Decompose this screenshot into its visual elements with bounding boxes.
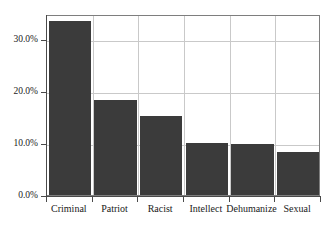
y-axis-tick-label: 10.0% bbox=[13, 139, 38, 149]
x-axis-tick bbox=[183, 197, 184, 202]
x-axis-tick-label: Sexual bbox=[284, 204, 311, 214]
bar bbox=[94, 100, 137, 195]
y-axis-tick-label: 20.0% bbox=[13, 87, 38, 97]
x-axis-tick-label: Patriot bbox=[101, 204, 128, 214]
x-axis-tick bbox=[92, 197, 93, 202]
x-axis-tick bbox=[320, 197, 321, 202]
x-axis-tick-label: Intellect bbox=[189, 204, 222, 214]
x-axis-tick-label: Criminal bbox=[51, 204, 87, 214]
bar-chart: 0.0%10.0%20.0%30.0% CriminalPatriotRacis… bbox=[0, 0, 331, 231]
plot-area bbox=[46, 15, 320, 196]
bar bbox=[140, 116, 183, 195]
y-axis-tick bbox=[41, 92, 47, 93]
x-axis-tick bbox=[274, 197, 275, 202]
x-axis-tick bbox=[46, 197, 47, 202]
bar bbox=[186, 143, 229, 195]
bar bbox=[49, 21, 92, 195]
x-axis-tick bbox=[137, 197, 138, 202]
x-axis-tick bbox=[229, 197, 230, 202]
y-axis-tick-label: 30.0% bbox=[13, 35, 38, 45]
x-axis-tick-label: Dehumanize bbox=[226, 204, 277, 214]
bar bbox=[277, 152, 320, 195]
bars-container bbox=[47, 16, 319, 195]
y-axis-tick-label: 0.0% bbox=[18, 191, 38, 201]
bar bbox=[231, 144, 274, 195]
x-axis-tick-label: Racist bbox=[148, 204, 173, 214]
y-axis-line bbox=[46, 15, 47, 197]
y-axis-tick bbox=[41, 40, 47, 41]
y-axis-tick bbox=[41, 144, 47, 145]
